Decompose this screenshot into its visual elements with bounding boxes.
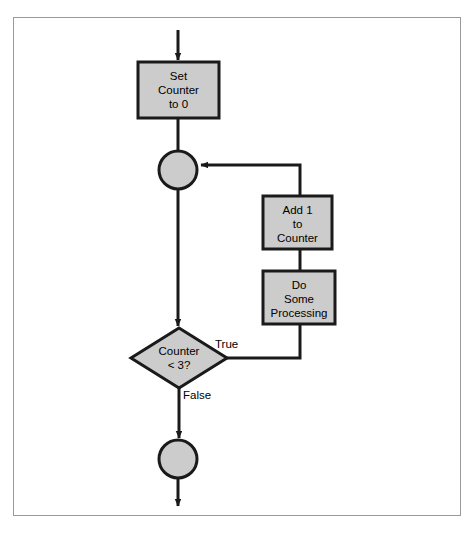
edge-add-to-junction-line (201, 165, 300, 196)
edge-true-line (227, 324, 300, 358)
node-add-one-shape (263, 196, 332, 249)
flowchart-graphics (0, 0, 476, 533)
flowchart-canvas: Set Counter to 0 Add 1 to Counter Do Som… (0, 0, 476, 533)
node-end-shape (159, 440, 197, 478)
node-loop-junction-shape (159, 151, 197, 189)
node-counter-check-shape (131, 328, 227, 388)
node-set-counter-shape (138, 62, 219, 118)
node-do-processing-shape (263, 271, 335, 324)
